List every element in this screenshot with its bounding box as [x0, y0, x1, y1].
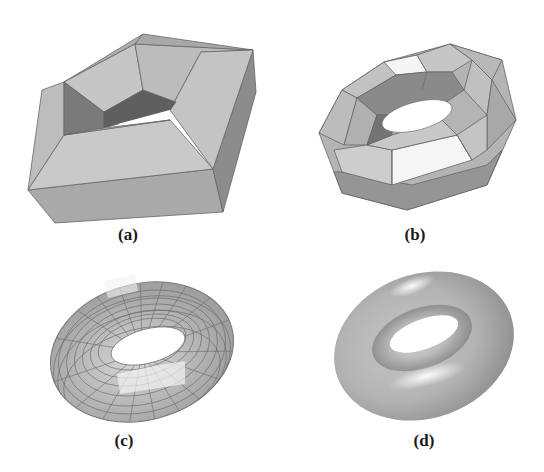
panel-d: (d)	[272, 236, 544, 472]
coarse-mesh-torus-image	[0, 0, 272, 236]
panel-c: (c)	[0, 236, 272, 472]
caption-d: (d)	[414, 431, 435, 451]
smooth-torus-image	[272, 236, 544, 472]
faceted-torus-image	[272, 0, 544, 236]
panel-b: (b)	[272, 0, 544, 236]
caption-c: (c)	[115, 431, 134, 451]
panel-a: (a)	[0, 0, 272, 236]
refined-mesh-torus-image	[0, 236, 272, 472]
